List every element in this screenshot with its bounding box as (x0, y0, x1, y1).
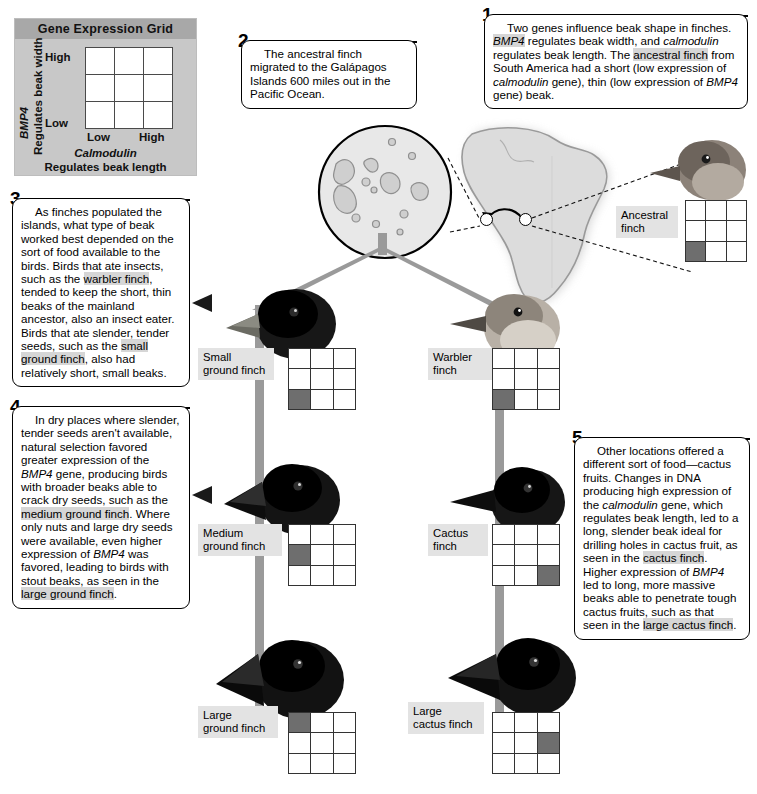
legend-x-gene: Calmodulin (15, 147, 196, 159)
bird-eye-highlight (298, 483, 301, 486)
bird-crown (259, 640, 325, 692)
expression-cell (334, 754, 355, 773)
expression-cell (686, 242, 705, 261)
bird-crown (258, 290, 318, 338)
expression-cell (538, 566, 559, 585)
legend-y-gene-text: BMP4 (18, 119, 30, 139)
legend-x-low: Low (87, 131, 110, 143)
expression-cell (493, 566, 514, 585)
expression-cell (493, 713, 514, 732)
bird-eye-highlight (534, 659, 537, 662)
expression-cell (515, 713, 536, 732)
bird-eye (524, 484, 533, 493)
legend-body: BMP4 Regulates beak width High Low Low H… (15, 39, 196, 177)
expression-grid-cactus (492, 524, 560, 586)
expression-cell (686, 201, 705, 220)
expression-cell (515, 566, 536, 585)
legend-cell (115, 102, 143, 128)
expression-cell (289, 369, 310, 388)
bird-beak (450, 316, 486, 332)
expression-cell (289, 754, 310, 773)
legend-cell (115, 75, 143, 101)
callout-4-pointer-arrow (190, 484, 214, 506)
expression-cell (515, 390, 536, 409)
bird-eye (289, 307, 298, 316)
expression-cell (515, 349, 536, 368)
callout-4-text: In dry places where slender, tender seed… (21, 413, 181, 601)
expression-cell (311, 349, 332, 368)
legend-title: Gene Expression Grid (15, 19, 196, 39)
mainland-location-marker (519, 213, 532, 226)
callout-1-text: Two genes influence beak shape in finche… (493, 21, 739, 101)
bird-cheek (692, 163, 744, 201)
expression-cell (334, 390, 355, 409)
finch-label-cactus: Cactus finch (428, 524, 488, 556)
expression-grid-ancestral (685, 200, 747, 262)
inset-leader-line (450, 226, 480, 232)
bird-crown (262, 464, 322, 512)
expression-grid-warbler (492, 348, 560, 410)
expression-grid-large-ground (288, 712, 356, 774)
expression-cell (515, 525, 536, 544)
expression-cell (311, 525, 332, 544)
expression-cell (289, 349, 310, 368)
legend-y-high: High (45, 51, 71, 63)
finch-label-warbler: Warbler finch (428, 348, 494, 380)
expression-cell (493, 545, 514, 564)
expression-cell (727, 242, 746, 261)
expression-cell (538, 349, 559, 368)
expression-cell (289, 733, 310, 752)
callout-2-text: The ancestral finch migrated to the Galá… (250, 47, 408, 101)
callout-5: Other locations offered a different sort… (574, 437, 750, 640)
legend-cell (144, 102, 172, 128)
bird-beak-upper (232, 314, 260, 328)
callout-1: Two genes influence beak shape in finche… (484, 14, 748, 109)
expression-cell (538, 525, 559, 544)
expression-cell (334, 733, 355, 752)
finch-label-medium-ground: Medium ground finch (198, 524, 282, 556)
expression-cell (538, 713, 559, 732)
expression-cell (515, 369, 536, 388)
expression-cell (493, 733, 514, 752)
finch-label-large-ground: Large ground finch (198, 706, 278, 738)
expression-cell (538, 545, 559, 564)
finch-label-small-ground: Small ground finch (198, 348, 274, 380)
legend-cell (144, 48, 172, 74)
diagram-canvas: Gene Expression Grid BMP4 Regulates beak… (0, 0, 757, 794)
finch-label-ancestral: Ancestral finch (616, 206, 678, 238)
bird-crown (496, 638, 560, 690)
expression-cell (334, 566, 355, 585)
legend-cell (86, 75, 114, 101)
bird-eye (293, 481, 302, 490)
legend-cell (86, 102, 114, 128)
expression-cell (311, 390, 332, 409)
expression-cell (538, 733, 559, 752)
expression-cell (311, 545, 332, 564)
galapagos-location-marker (480, 213, 493, 226)
bird-eye (514, 308, 523, 317)
bird-eye (529, 657, 539, 667)
finch-label-large-cactus: Large cactus finch (408, 702, 484, 734)
expression-cell (311, 566, 332, 585)
bird-eye-highlight (706, 156, 709, 159)
bird-eye-highlight (298, 661, 301, 664)
callout-3-text: As finches populated the islands, what t… (21, 205, 181, 379)
expression-cell (727, 201, 746, 220)
gene-expression-grid-legend: Gene Expression Grid BMP4 Regulates beak… (14, 18, 197, 176)
callout-5-text: Other locations offered a different sort… (583, 444, 741, 632)
bird-eye (293, 659, 303, 669)
expression-cell (289, 566, 310, 585)
expression-cell (311, 713, 332, 732)
legend-x-high: High (139, 131, 165, 143)
bird-beak (650, 166, 680, 181)
expression-grid-medium-ground (288, 524, 356, 586)
expression-cell (538, 754, 559, 773)
expression-grid-small-ground (288, 348, 356, 410)
legend-x-desc: Regulates beak length (15, 161, 196, 173)
bird-beak-upper (456, 654, 500, 680)
expression-cell (334, 545, 355, 564)
expression-cell (289, 545, 310, 564)
expression-cell (311, 369, 332, 388)
expression-cell (311, 754, 332, 773)
expression-grid-large-cactus (492, 712, 560, 774)
